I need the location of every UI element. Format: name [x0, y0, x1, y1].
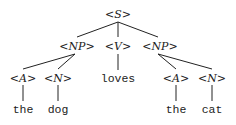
node-a-left: <A> — [10, 72, 36, 85]
edge-s-np2 — [118, 22, 158, 37]
word-the-right: the — [166, 103, 187, 116]
parse-tree-diagram: <S> <NP> <V> <NP> <A> <N> loves <A> <N> … — [0, 0, 236, 125]
node-n-right: <N> — [198, 72, 226, 85]
node-n-left: <N> — [44, 72, 72, 85]
node-a-right: <A> — [163, 72, 189, 85]
node-s: <S> — [105, 8, 131, 21]
word-the-left: the — [13, 103, 34, 116]
word-dog: dog — [48, 103, 69, 116]
tree-edges — [23, 22, 212, 101]
node-v: <V> — [105, 40, 131, 53]
edge-s-np1 — [77, 22, 118, 37]
edge-np2-n2 — [158, 54, 212, 69]
word-loves: loves — [101, 72, 136, 85]
word-cat: cat — [202, 103, 223, 116]
node-np-right: <NP> — [142, 40, 177, 53]
node-np-left: <NP> — [59, 40, 94, 53]
